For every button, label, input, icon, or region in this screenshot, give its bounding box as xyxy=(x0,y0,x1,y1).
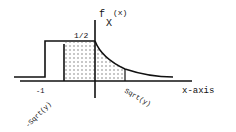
upper-bound-label: Sqrt(y) xyxy=(123,87,152,109)
pdf-diagram: f X (x) 1/2 -1 x-axis -Sqrt(y) Sqrt(y) xyxy=(0,0,236,132)
x-axis-label: x-axis xyxy=(182,86,214,96)
function-label-f: f xyxy=(99,9,105,20)
level-label: 1/2 xyxy=(74,31,89,40)
lower-bound-label: -Sqrt(y) xyxy=(24,100,53,129)
tick-label-minus-one: -1 xyxy=(36,87,44,95)
function-label-argument: (x) xyxy=(113,8,127,17)
function-label-subscript: X xyxy=(106,18,112,29)
